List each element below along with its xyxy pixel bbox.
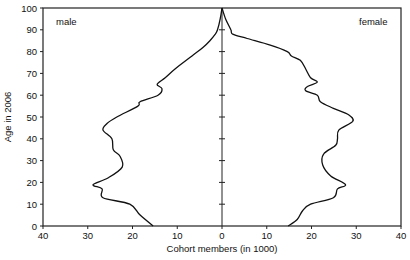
female-series-line — [222, 8, 353, 226]
female-label: female — [359, 16, 388, 27]
x-tick-label: 0 — [219, 230, 224, 241]
y-tick-label: 90 — [26, 24, 37, 35]
x-tick-label: 40 — [396, 230, 407, 241]
y-tick-label: 40 — [26, 133, 37, 144]
y-tick-label: 20 — [26, 177, 37, 188]
y-axis-ticks: 0102030405060708090100 — [21, 3, 43, 232]
x-tick-label: 20 — [306, 230, 317, 241]
x-axis-ticks: 40302010010203040 — [38, 226, 407, 241]
x-tick-label: 10 — [261, 230, 272, 241]
male-label: male — [56, 16, 77, 27]
y-tick-label: 50 — [26, 112, 37, 123]
male-series-line — [93, 8, 222, 226]
population-pyramid-chart: 0102030405060708090100 40302010010203040… — [0, 0, 410, 260]
x-tick-label: 20 — [127, 230, 138, 241]
x-tick-label: 30 — [82, 230, 93, 241]
x-tick-label: 30 — [351, 230, 362, 241]
y-tick-label: 10 — [26, 199, 37, 210]
y-tick-label: 70 — [26, 68, 37, 79]
x-tick-label: 10 — [172, 230, 183, 241]
y-tick-label: 0 — [32, 221, 37, 232]
chart-svg: 0102030405060708090100 40302010010203040… — [0, 0, 410, 260]
y-tick-label: 100 — [21, 3, 37, 14]
x-tick-label: 40 — [38, 230, 49, 241]
y-tick-label: 30 — [26, 155, 37, 166]
y-tick-label: 80 — [26, 46, 37, 57]
y-tick-label: 60 — [26, 90, 37, 101]
x-axis-title: Cohort members (in 1000) — [167, 243, 278, 254]
y-axis-title: Age in 2006 — [2, 92, 13, 143]
